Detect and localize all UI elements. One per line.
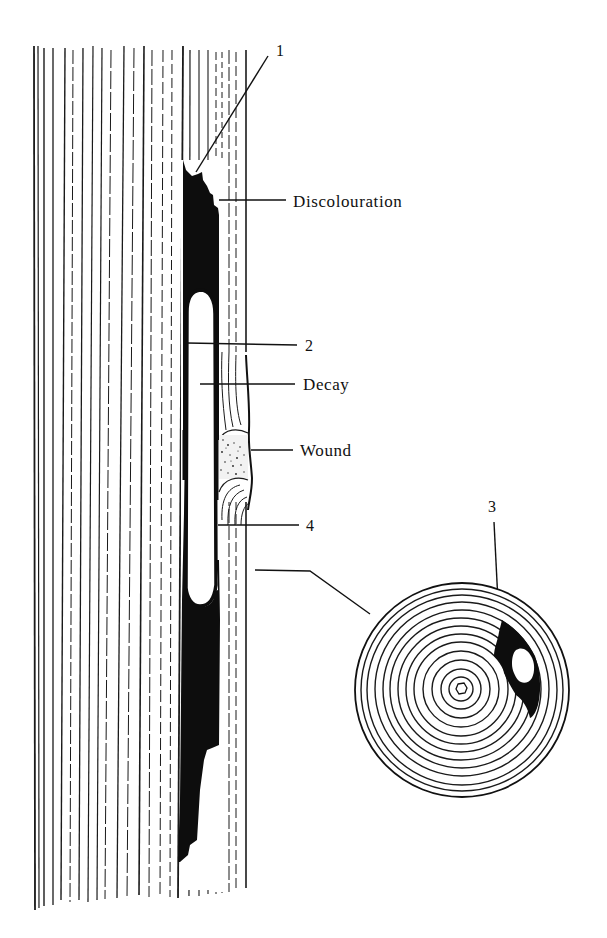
label-1: 1 xyxy=(276,42,284,59)
label-discolouration: Discolouration xyxy=(293,192,402,211)
cross-section-disc xyxy=(355,583,569,797)
label-decay: Decay xyxy=(303,375,349,394)
label-wound: Wound xyxy=(300,441,352,460)
leader-1 xyxy=(196,56,268,172)
label-3: 3 xyxy=(488,498,496,515)
wound-region xyxy=(219,352,252,525)
label-2: 2 xyxy=(305,337,313,354)
tree-decay-diagram: 1 Discolouration 2 Decay Wound 4 3 xyxy=(0,0,607,938)
leader-cross-section xyxy=(255,570,370,614)
decay-column xyxy=(186,290,216,606)
leader-lines xyxy=(187,56,499,622)
label-4: 4 xyxy=(306,517,314,534)
